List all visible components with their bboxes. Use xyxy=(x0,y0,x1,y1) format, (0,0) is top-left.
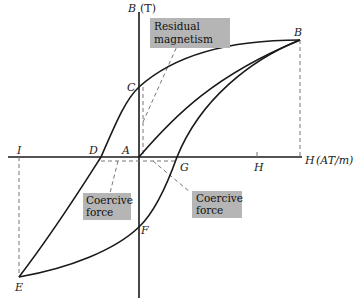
b-axis-symbol: B xyxy=(127,2,136,15)
coercive-left-line2: force xyxy=(86,206,113,218)
lower-branch xyxy=(19,40,300,277)
point-h-label: H xyxy=(253,161,264,174)
point-e-label: E xyxy=(14,281,23,294)
residual-line2: magnetism xyxy=(154,33,213,45)
coercive-right-line1: Coercive xyxy=(196,192,243,204)
residual-line1: Residual xyxy=(154,20,201,32)
coercive-left-line1: Coercive xyxy=(86,194,133,206)
upper-branch xyxy=(19,40,300,277)
residual-magnetism-box: Residual magnetism xyxy=(150,18,230,48)
point-f-label: F xyxy=(140,224,149,237)
h-axis-unit: (AT/m) xyxy=(316,154,353,167)
guide-lines xyxy=(19,40,300,277)
point-d-label: D xyxy=(88,144,98,157)
point-c-label: C xyxy=(127,81,136,94)
b-axis-unit: (T) xyxy=(140,2,156,15)
point-i-label: I xyxy=(16,144,22,157)
initial-curve xyxy=(139,40,300,157)
point-b-label: B xyxy=(293,26,302,39)
coercive-right-line2: force xyxy=(196,204,223,216)
coercive-force-left-box: Coercive force xyxy=(83,193,133,220)
point-a-label: A xyxy=(121,144,130,157)
h-axis-symbol: H xyxy=(304,154,315,167)
loop-curves xyxy=(19,40,300,277)
point-g-label: G xyxy=(180,161,189,174)
coercive-force-right-box: Coercive force xyxy=(192,191,243,218)
hysteresis-diagram: Residual magnetism Coercive force Coerci… xyxy=(0,0,361,305)
